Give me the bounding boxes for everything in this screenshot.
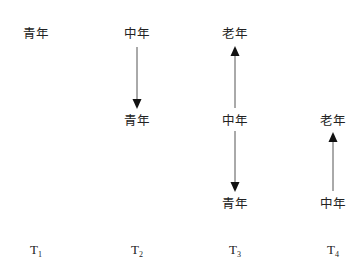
time-label-t4: T4 bbox=[327, 243, 339, 262]
time-label-t1: T1 bbox=[30, 243, 42, 262]
time-label-t3: T3 bbox=[229, 243, 241, 262]
t4-arrow-up-icon bbox=[329, 132, 338, 191]
t3-arrow-down-icon bbox=[231, 131, 240, 192]
t3-arrow-up-icon bbox=[231, 46, 240, 108]
time-label-t2: T2 bbox=[131, 243, 143, 262]
transition-arrows bbox=[0, 0, 363, 267]
t2-arrow-down-icon bbox=[133, 47, 142, 109]
